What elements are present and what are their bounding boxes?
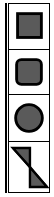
tool-ellipse[interactable] [8, 94, 50, 142]
tool-rectangle[interactable] [8, 3, 50, 50]
bowtie-icon [9, 142, 49, 192]
tool-bowtie[interactable] [8, 141, 50, 193]
tool-rounded-rectangle[interactable] [8, 49, 50, 95]
ellipse-icon [9, 95, 49, 141]
rounded-rectangle-icon [9, 50, 49, 94]
rectangle-icon [9, 4, 49, 49]
shape-palette [5, 3, 48, 193]
